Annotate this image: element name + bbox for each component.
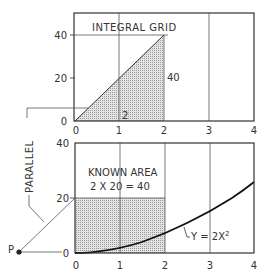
y-tick-40: 40 [56,138,69,149]
point-p [16,249,21,254]
x-tick-3: 3 [206,125,212,136]
known-area-label: KNOWN AREA [88,167,158,178]
label-base: 2 [122,110,128,121]
x-tick-1: 1 [116,125,122,136]
x-tick-2: 2 [162,260,168,271]
top-chart: INTEGRAL GRID 40 2 40 20 0 0 1 2 3 4 [54,13,257,136]
bottom-chart: Y = 2X2 KNOWN AREA 2 X 20 = 40 40 20 0 0… [56,138,257,271]
curve-label-leader [184,227,190,237]
y-tick-0: 0 [61,116,67,127]
parallel-label: PARALLEL [24,140,35,193]
x-tick-1: 1 [117,260,123,271]
x-tick-4: 4 [251,125,257,136]
x-tick-2: 2 [161,125,167,136]
known-area-formula: 2 X 20 = 40 [90,181,150,192]
y-tick-20: 20 [56,193,69,204]
point-p-label: P [8,244,14,255]
label-height: 40 [167,72,180,83]
x-tick-3: 3 [207,260,213,271]
x-tick-0: 0 [73,125,79,136]
curve-label: Y = 2X2 [190,230,230,242]
parallel-line [19,198,75,252]
x-tick-0: 0 [73,260,79,271]
y-tick-40: 40 [54,30,67,41]
y-tick-20: 20 [54,73,67,84]
y-tick-0: 0 [63,248,69,259]
x-tick-4: 4 [251,260,257,271]
top-chart-title: INTEGRAL GRID [92,22,177,33]
parallel-leader [29,195,44,222]
integral-diagram: INTEGRAL GRID 40 2 40 20 0 0 1 2 3 4 Y =… [0,0,267,275]
